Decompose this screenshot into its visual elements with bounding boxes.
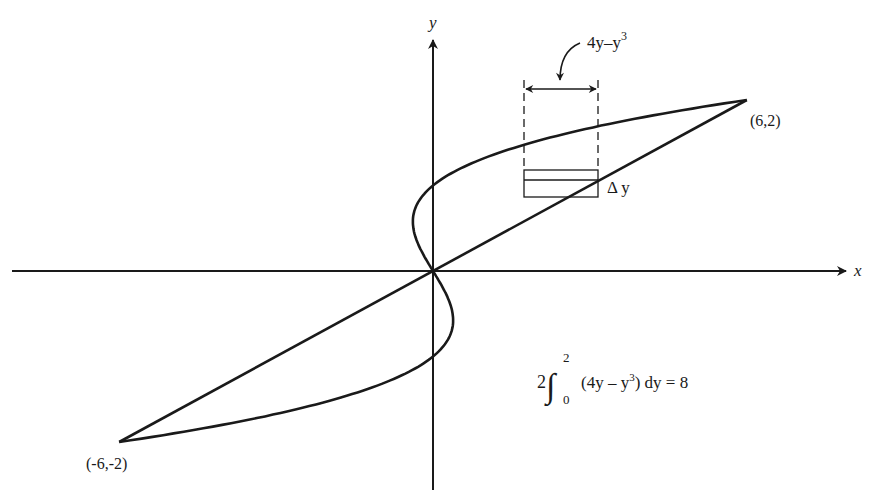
point-label-upper: (6,2): [750, 112, 781, 130]
delta-y-label: Δ y: [607, 178, 630, 197]
point-label-lower: (-6,-2): [86, 455, 127, 473]
integral-lower-limit: 0: [563, 392, 570, 407]
integral-sign: ∫: [544, 367, 558, 407]
strip-rectangle: [524, 170, 598, 197]
y-axis-label: y: [427, 13, 437, 32]
strip: [524, 43, 598, 197]
integral-upper-limit: 2: [563, 350, 570, 365]
x-axis-label: x: [853, 261, 862, 280]
integral-coefficient: 2: [537, 372, 546, 392]
pointer-arrow: [560, 43, 580, 80]
width-label: 4y–y3: [587, 29, 627, 52]
integral-expression: 2 ∫ 2 0 (4y – y3) dy = 8: [537, 350, 688, 407]
integrand: (4y – y3) dy = 8: [581, 371, 688, 392]
area-between-curves-figure: x y 4y–y3 Δ y (6,2) (-6,-2) 2 ∫ 2 0 (4y …: [0, 0, 876, 493]
